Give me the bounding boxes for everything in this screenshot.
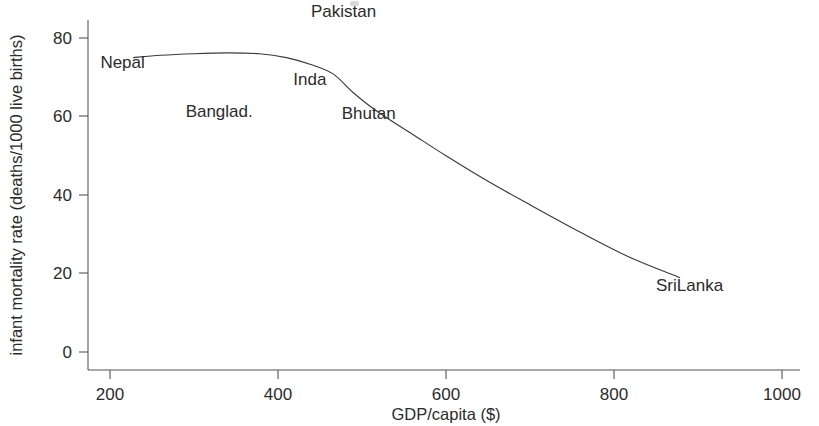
y-axis-ticks bbox=[79, 38, 88, 352]
y-axis-title: infant mortality rate (deaths/1000 live … bbox=[7, 35, 25, 356]
point-label-bhutan: Bhutan bbox=[342, 104, 396, 123]
line-chart-svg: 0 20 40 60 80 200 400 600 800 1000 GDP/c… bbox=[0, 0, 819, 426]
x-tick-label-1000: 1000 bbox=[763, 385, 801, 404]
point-label-inda: Inda bbox=[293, 70, 327, 89]
point-label-srilanka: SriLanka bbox=[656, 276, 724, 295]
y-tick-label-20: 20 bbox=[53, 264, 72, 283]
data-curve-infant-mortality bbox=[134, 53, 680, 278]
point-label-pakistan: Pakistan bbox=[311, 2, 376, 21]
point-label-banglad: Banglad. bbox=[186, 102, 253, 121]
x-axis-title: GDP/capita ($) bbox=[391, 405, 500, 423]
annotation-labels: NepalBanglad.PakistanIndaBhutanSriLanka bbox=[100, 2, 723, 296]
chart-figure: 0 20 40 60 80 200 400 600 800 1000 GDP/c… bbox=[0, 0, 819, 426]
x-tick-label-800: 800 bbox=[600, 385, 628, 404]
point-label-nepal: Nepal bbox=[100, 53, 144, 72]
y-tick-label-40: 40 bbox=[53, 186, 72, 205]
y-tick-label-0: 0 bbox=[63, 343, 72, 362]
x-axis-ticks bbox=[110, 370, 782, 379]
x-tick-label-400: 400 bbox=[264, 385, 292, 404]
x-tick-label-200: 200 bbox=[96, 385, 124, 404]
y-tick-label-80: 80 bbox=[53, 29, 72, 48]
x-tick-label-600: 600 bbox=[432, 385, 460, 404]
y-tick-label-60: 60 bbox=[53, 107, 72, 126]
